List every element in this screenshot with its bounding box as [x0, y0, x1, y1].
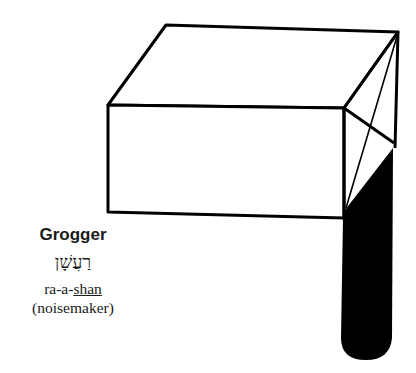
caption-hebrew: רַעֲשָׁן [0, 249, 146, 275]
caption-translation: (noisemaker) [0, 298, 146, 317]
transliteration-prefix: ra-a- [44, 280, 73, 297]
caption: Grogger רַעֲשָׁן ra-a-shan (noisemaker) [0, 224, 146, 317]
box-front-face [108, 105, 344, 218]
transliteration-stressed: shan [73, 280, 101, 297]
box-side-edge [344, 108, 394, 143]
caption-title: Grogger [0, 224, 146, 246]
grogger-illustration [0, 0, 416, 373]
caption-transliteration: ra-a-shan [0, 279, 146, 298]
grogger-handle [341, 148, 393, 360]
